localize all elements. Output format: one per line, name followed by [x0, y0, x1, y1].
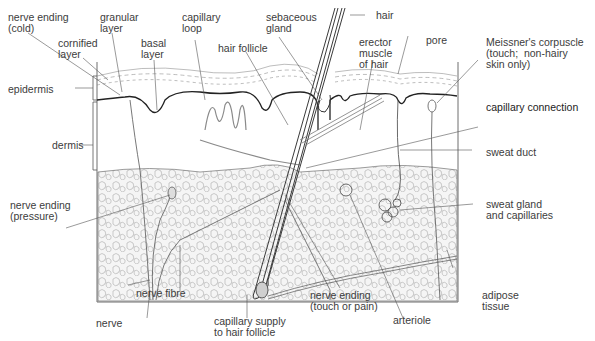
label-capillary-loop: capillary loop	[182, 12, 221, 34]
label-sweat-duct: sweat duct	[486, 147, 536, 158]
label-nerve-ending-cold: nerve ending (cold)	[8, 12, 69, 34]
label-sweat-gland: sweat gland and capillaries	[486, 199, 553, 221]
label-capillary-supply: capillary supply to hair follicle	[214, 316, 286, 338]
region-brackets	[93, 76, 97, 170]
label-dermis: dermis	[52, 140, 84, 151]
label-nerve-ending-pressure: nerve ending (pressure)	[10, 200, 71, 222]
label-cornified-layer: cornified layer	[58, 38, 98, 60]
label-capillary-connection: capillary connection	[486, 102, 578, 113]
adipose-layer	[98, 165, 457, 301]
label-arteriole: arteriole	[393, 315, 431, 326]
basal-layer-line	[97, 92, 457, 130]
label-granular-layer: granular layer	[100, 12, 139, 34]
label-adipose-tissue: adipose tissue	[482, 290, 519, 312]
capillary-loops	[200, 102, 300, 165]
label-nerve-ending-touch: nerve ending (touch or pain)	[310, 290, 378, 312]
erector-muscle	[300, 95, 384, 146]
label-basal-layer: basal layer	[141, 38, 166, 60]
label-hair-follicle: hair follicle	[218, 43, 268, 54]
label-sebaceous-gland: sebaceous gland	[266, 12, 317, 34]
label-nerve: nerve	[96, 318, 122, 329]
label-nerve-fibre: nerve fibre	[136, 288, 186, 299]
label-meissners-corpuscle: Meissner's corpuscle (touch; non-hairy s…	[486, 37, 584, 70]
label-hair: hair	[376, 10, 394, 21]
label-pore: pore	[426, 35, 447, 46]
label-epidermis: epidermis	[8, 84, 54, 95]
label-erector-muscle: erector muscle of hair	[359, 37, 392, 70]
cornified-layer	[97, 64, 457, 86]
